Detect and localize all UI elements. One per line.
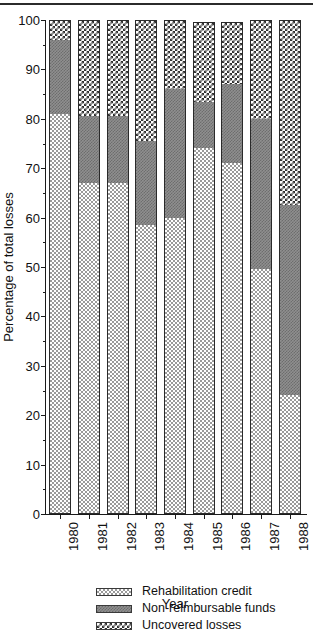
bar-segment-1983-uncovered-losses <box>135 20 157 141</box>
x-tick-label-1981: 1981 <box>95 522 110 551</box>
legend-label: Rehabilitation credit <box>142 585 252 598</box>
y-tick-label: 90 <box>26 63 40 76</box>
x-axis-line <box>45 514 307 515</box>
legend-swatch-icon <box>96 622 132 630</box>
bar-1981 <box>78 20 100 514</box>
bar-1985 <box>193 20 215 514</box>
legend-label: Non-reimbursable funds <box>142 602 275 615</box>
bar-segment-1980-rehabilitation-credit <box>49 114 71 514</box>
x-tick-1983 <box>146 514 147 519</box>
bar-segment-1981-rehabilitation-credit <box>78 183 100 514</box>
x-tick-label-1985: 1985 <box>210 522 225 551</box>
y-tick-label: 50 <box>26 261 40 274</box>
bar-segment-1986-rehabilitation-credit <box>221 163 243 514</box>
bar-segment-1980-uncovered-losses <box>49 20 71 40</box>
y-tick-major <box>41 514 46 515</box>
bar-segment-1985-uncovered-losses <box>193 22 215 101</box>
figure-root: 0102030405060708090100 Percentage of tot… <box>0 0 313 630</box>
y-tick-label: 80 <box>26 112 40 125</box>
x-tick-label-1980: 1980 <box>66 522 81 551</box>
bar-1982 <box>107 20 129 514</box>
plot-area: 0102030405060708090100 Percentage of tot… <box>46 20 304 514</box>
x-tick-label-1983: 1983 <box>152 522 167 551</box>
legend-item-rehabilitation-credit: Rehabilitation credit <box>96 584 306 599</box>
bar-segment-1985-rehabilitation-credit <box>193 148 215 514</box>
bar-segment-1987-uncovered-losses <box>250 20 272 119</box>
y-tick-label: 30 <box>26 359 40 372</box>
bar-segment-1986-non-reimbursable-funds <box>221 84 243 163</box>
bar-segment-1985-non-reimbursable-funds <box>193 102 215 149</box>
bar-segment-1988-non-reimbursable-funds <box>279 205 301 395</box>
y-tick-label: 0 <box>33 508 40 521</box>
bar-segment-1987-rehabilitation-credit <box>250 269 272 514</box>
x-tick-1980 <box>60 514 61 519</box>
bar-segment-1986-uncovered-losses <box>221 22 243 84</box>
legend-label: Uncovered losses <box>142 619 241 630</box>
bar-1983 <box>135 20 157 514</box>
bar-segment-1983-rehabilitation-credit <box>135 225 157 514</box>
bar-segment-1988-uncovered-losses <box>279 20 301 205</box>
bar-segment-1982-uncovered-losses <box>107 20 129 116</box>
bar-segment-1984-uncovered-losses <box>164 20 186 89</box>
x-tick-label-1986: 1986 <box>238 522 253 551</box>
y-tick-label: 100 <box>18 14 40 27</box>
legend-item-uncovered-losses: Uncovered losses <box>96 618 306 630</box>
bar-segment-1980-non-reimbursable-funds <box>49 40 71 114</box>
bar-segment-1982-rehabilitation-credit <box>107 183 129 514</box>
x-tick-1986 <box>232 514 233 519</box>
bar-segment-1981-non-reimbursable-funds <box>78 116 100 183</box>
bar-1988 <box>279 20 301 514</box>
figure-top-rule <box>0 3 313 5</box>
x-tick-label-1988: 1988 <box>296 522 311 551</box>
x-tick-1987 <box>261 514 262 519</box>
y-tick-label: 70 <box>26 162 40 175</box>
bar-1987 <box>250 20 272 514</box>
bar-1984 <box>164 20 186 514</box>
y-tick-label: 20 <box>26 409 40 422</box>
y-tick-label: 40 <box>26 310 40 323</box>
y-tick-label: 10 <box>26 458 40 471</box>
chart-legend: Rehabilitation creditNon-reimbursable fu… <box>96 584 306 630</box>
x-tick-1985 <box>204 514 205 519</box>
bar-1980 <box>49 20 71 514</box>
bar-segment-1988-rehabilitation-credit <box>279 395 301 514</box>
bar-segment-1984-rehabilitation-credit <box>164 218 186 514</box>
bar-group <box>46 20 304 514</box>
x-tick-1984 <box>175 514 176 519</box>
y-axis-title: Percentage of total losses <box>1 192 16 342</box>
x-tick-1982 <box>118 514 119 519</box>
bar-segment-1982-non-reimbursable-funds <box>107 116 129 183</box>
x-tick-1981 <box>89 514 90 519</box>
x-tick-label-1982: 1982 <box>124 522 139 551</box>
bar-1986 <box>221 20 243 514</box>
bar-segment-1987-non-reimbursable-funds <box>250 119 272 270</box>
x-tick-1988 <box>290 514 291 519</box>
legend-swatch-icon <box>96 588 132 596</box>
bar-segment-1981-uncovered-losses <box>78 20 100 116</box>
legend-swatch-icon <box>96 605 132 613</box>
bar-segment-1984-non-reimbursable-funds <box>164 89 186 217</box>
x-tick-label-1984: 1984 <box>181 522 196 551</box>
x-tick-label-1987: 1987 <box>267 522 282 551</box>
legend-item-non-reimbursable-funds: Non-reimbursable funds <box>96 601 306 616</box>
bar-segment-1983-non-reimbursable-funds <box>135 141 157 225</box>
y-tick-label: 60 <box>26 211 40 224</box>
